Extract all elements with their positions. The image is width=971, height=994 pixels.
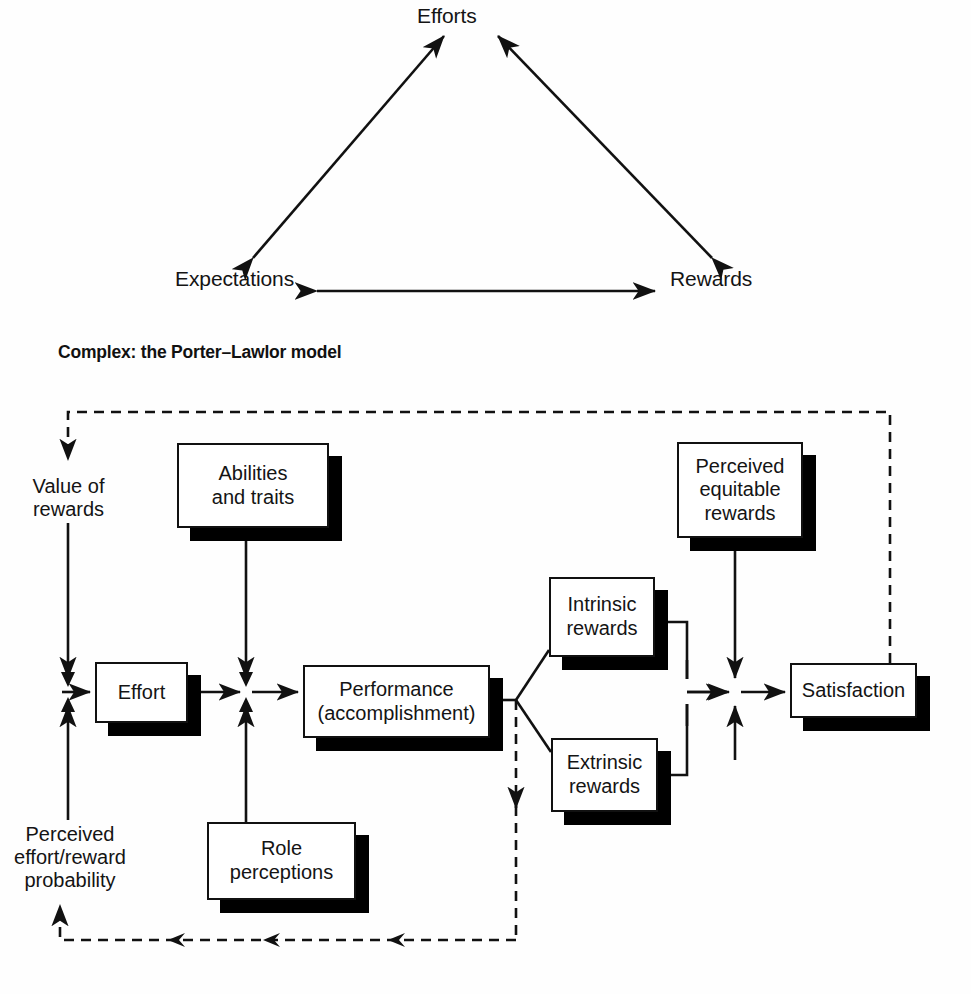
intrinsic-rewards-label: Intrinsic rewards bbox=[562, 593, 641, 640]
satisfaction-label: Satisfaction bbox=[798, 679, 909, 703]
role-perceptions-label: Role perceptions bbox=[226, 837, 337, 884]
triangle-node-efforts: Efforts bbox=[417, 4, 477, 28]
role-perceptions-box: Role perceptions bbox=[207, 822, 356, 900]
performance-label: Performance (accomplishment) bbox=[314, 678, 480, 725]
effort-box: Effort bbox=[95, 662, 188, 723]
triangle-diagram-lines bbox=[0, 0, 971, 994]
abilities-and-traits-box: Abilities and traits bbox=[177, 443, 329, 528]
satisfaction-box: Satisfaction bbox=[790, 663, 917, 718]
node-value-of-rewards: Value of rewards bbox=[6, 475, 131, 521]
section-heading: Complex: the Porter–Lawlor model bbox=[58, 342, 341, 363]
figure-page: Efforts Expectations Rewards Complex: th… bbox=[0, 0, 971, 994]
extrinsic-rewards-label: Extrinsic rewards bbox=[563, 751, 647, 798]
node-perceived-effort-reward-probability: Perceived effort/reward probability bbox=[0, 823, 140, 893]
intrinsic-rewards-box: Intrinsic rewards bbox=[549, 577, 655, 657]
effort-label: Effort bbox=[114, 681, 169, 705]
perceived-equitable-rewards-box: Perceived equitable rewards bbox=[677, 442, 803, 538]
abilities-and-traits-label: Abilities and traits bbox=[208, 462, 298, 509]
performance-box: Performance (accomplishment) bbox=[303, 665, 490, 738]
triangle-node-expectations: Expectations bbox=[175, 267, 294, 291]
triangle-node-rewards: Rewards bbox=[670, 267, 752, 291]
extrinsic-rewards-box: Extrinsic rewards bbox=[551, 738, 658, 812]
perceived-equitable-rewards-label: Perceived equitable rewards bbox=[692, 455, 789, 526]
